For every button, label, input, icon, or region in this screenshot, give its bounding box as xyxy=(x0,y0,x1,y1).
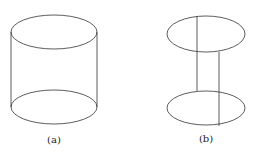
figure-b-disks xyxy=(167,16,245,126)
figure-b-label: (b) xyxy=(199,133,213,144)
disk-top-ellipse xyxy=(167,16,245,52)
disk-bottom-ellipse xyxy=(167,91,245,125)
cylinder-bottom-ellipse xyxy=(11,90,97,124)
diagram-canvas: (a) (b) xyxy=(0,0,256,153)
figure-a-cylinder xyxy=(11,15,97,124)
figure-a-label: (a) xyxy=(47,134,61,145)
cylinder-top-ellipse xyxy=(11,15,97,49)
